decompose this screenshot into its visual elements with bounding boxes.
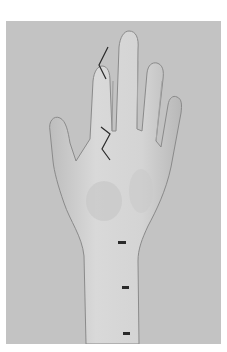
hand-illustration [6, 21, 221, 344]
forearm-mark-3 [123, 332, 130, 335]
forearm-mark-2 [122, 286, 129, 289]
forearm-mark-1 [118, 241, 126, 244]
hand-photograph [6, 21, 221, 344]
